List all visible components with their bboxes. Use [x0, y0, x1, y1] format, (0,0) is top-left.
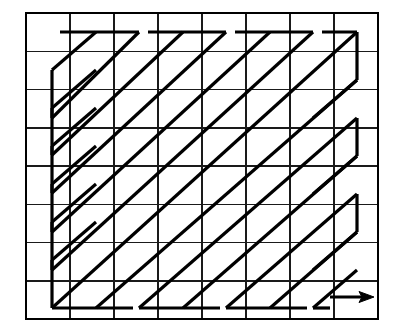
figure-container: Serpentine diagonal scan path over a rec… [0, 0, 400, 334]
scan-path-diagram: Serpentine diagonal scan path over a rec… [0, 0, 400, 334]
